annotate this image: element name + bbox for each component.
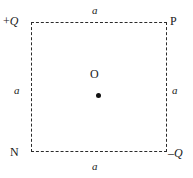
center-point-dot — [96, 93, 101, 98]
side-length-label-right: a — [172, 85, 178, 96]
square-edge-right — [166, 22, 167, 152]
square-edge-top — [31, 22, 167, 23]
charge-symbol-q-negative: Q — [174, 146, 183, 160]
square-edge-left — [31, 22, 32, 152]
square-edge-bottom — [31, 151, 167, 152]
corner-label-top-left: +Q — [3, 15, 18, 27]
center-point-label: O — [90, 68, 99, 80]
charge-sign-positive: + — [3, 14, 10, 28]
side-length-label-bottom: a — [92, 161, 98, 172]
side-length-label-top: a — [92, 5, 98, 16]
corner-label-bottom-left: N — [10, 146, 19, 158]
physics-figure-square-charges: +Q P N –Q a a a a O — [0, 0, 193, 178]
dashed-square — [31, 22, 167, 152]
charge-symbol-q-positive: Q — [10, 14, 19, 28]
corner-label-top-right: P — [170, 15, 177, 27]
corner-label-bottom-right: –Q — [168, 147, 183, 159]
side-length-label-left: a — [14, 85, 20, 96]
